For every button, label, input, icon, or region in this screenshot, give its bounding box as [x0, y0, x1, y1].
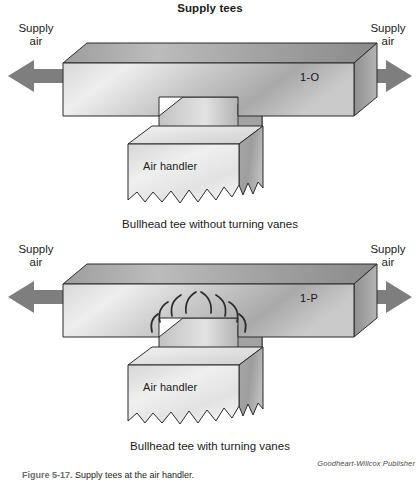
supply-air-label-left-bottom: Supply air [4, 243, 68, 268]
duct-top-face-bottom [63, 264, 377, 284]
caption-without-turning-vanes: Bullhead tee without turning vanes [0, 218, 420, 230]
air-handler-front-face-top [128, 144, 239, 203]
diagram-bullhead-tee-with-vanes: Supply air Supply air 1-P Air handler [0, 243, 420, 439]
supply-air-label-left-top: Supply air [4, 22, 68, 47]
air-handler-front-face-bottom [128, 365, 239, 424]
caption-with-turning-vanes: Bullhead tee with turning vanes [0, 440, 420, 452]
supply-air-label-right-bottom: Supply air [358, 243, 418, 268]
publisher-credit: Goodheart-Willcox Publisher [317, 459, 415, 468]
duct-top-face-top [63, 43, 377, 63]
air-handler-label-top: Air handler [143, 160, 197, 172]
figure-caption-text: Supply tees at the air handler. [75, 470, 194, 480]
tee-illustration-bottom [0, 243, 420, 439]
air-handler-label-bottom: Air handler [143, 381, 197, 393]
figure-page: Supply tees [0, 0, 420, 481]
figure-title: Supply tees [0, 2, 420, 14]
supply-air-label-right-top: Supply air [358, 22, 418, 47]
figure-caption-number: Figure 5-17. [22, 470, 73, 480]
tee-illustration-top [0, 22, 420, 218]
diagram-bullhead-tee-without-vanes: Supply air Supply air 1-O Air handler [0, 22, 420, 218]
duct-code-label-bottom: 1-P [300, 292, 318, 304]
figure-caption: Figure 5-17. Supply tees at the air hand… [22, 470, 194, 480]
duct-code-label-top: 1-O [300, 71, 319, 83]
